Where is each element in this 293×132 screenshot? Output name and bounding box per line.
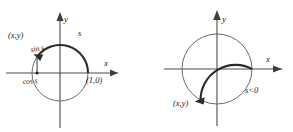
x-axis-label-right: x <box>265 54 270 64</box>
arc-negative-right <box>195 65 252 105</box>
arc-label-right: s<0 <box>245 85 259 95</box>
cos-label-left: cos s <box>23 76 38 86</box>
y-axis-left <box>56 12 63 128</box>
foot-point-left <box>36 72 39 75</box>
unit-circle-figure: (x,y) y x s sin s cos s (1,0) <box>0 0 293 132</box>
x-axis-label-left: x <box>103 58 108 68</box>
panel-right-negative-arc: y x s<0 (x,y) <box>146 0 293 132</box>
point-label-right: (x,y) <box>173 98 189 108</box>
y-axis-label-right: y <box>221 14 226 24</box>
intercept-label-left: (1,0) <box>86 75 102 85</box>
point-label-left: (x,y) <box>8 30 24 40</box>
arc-label-left: s <box>78 28 82 38</box>
y-axis-label-left: y <box>63 14 68 24</box>
panel-left-positive-arc: (x,y) y x s sin s cos s (1,0) <box>0 0 147 132</box>
